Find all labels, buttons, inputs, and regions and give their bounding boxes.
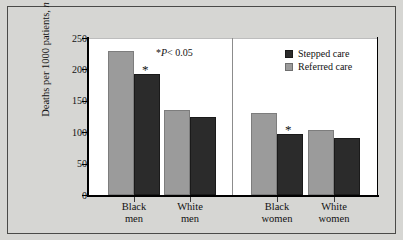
legend-label-referred-care: Referred care — [298, 62, 352, 72]
bar-stepped-black-men[interactable] — [134, 74, 160, 195]
bar-referred-white-men[interactable] — [164, 110, 190, 195]
x-axis-label-white-men: White men — [147, 201, 233, 224]
x-axis-label-white-men-line1: White — [147, 201, 233, 213]
significance-star-black-men: * — [142, 63, 149, 76]
y-tick-mark-250 — [82, 38, 87, 39]
x-axis-label-white-women-line1: White — [291, 201, 377, 213]
legend-item-stepped-care[interactable]: Stepped care — [285, 48, 352, 60]
bar-stepped-white-women[interactable] — [334, 138, 360, 195]
x-axis-label-white-women-line2: women — [291, 213, 377, 225]
x-axis-line — [87, 195, 379, 197]
y-tick-mark-50 — [82, 164, 87, 165]
bar-stepped-black-women[interactable] — [277, 134, 303, 196]
x-axis-label-white-men-line2: men — [147, 213, 233, 225]
y-axis-title-italic: n — [40, 2, 51, 7]
bar-stepped-white-men[interactable] — [190, 117, 216, 196]
y-tick-mark-200 — [82, 69, 87, 70]
legend: Stepped care Referred care — [285, 48, 352, 74]
y-axis-title: Deaths per 1000 patients, n — [40, 0, 51, 140]
p-value-suffix: < 0.05 — [167, 47, 193, 58]
y-tick-mark-0 — [82, 195, 87, 196]
legend-swatch-icon-stepped-care — [285, 50, 293, 58]
bar-referred-black-women[interactable] — [251, 113, 277, 195]
y-tick-mark-150 — [82, 101, 87, 102]
p-value-annotation: *P< 0.05 — [156, 47, 193, 58]
y-tick-mark-100 — [82, 132, 87, 133]
bar-referred-white-women[interactable] — [308, 130, 334, 195]
bar-referred-black-men[interactable] — [108, 51, 134, 195]
legend-item-referred-care[interactable]: Referred care — [285, 61, 352, 73]
figure-container: Deaths per 1000 patients, n 250 200 150 … — [0, 0, 403, 240]
legend-label-stepped-care: Stepped care — [298, 49, 349, 59]
figure-frame: Deaths per 1000 patients, n 250 200 150 … — [7, 6, 396, 234]
y-axis-title-text: Deaths per 1000 patients, — [40, 7, 51, 116]
y-tick-marks — [82, 7, 88, 240]
x-axis-label-white-women: White women — [291, 201, 377, 224]
legend-swatch-icon-referred-care — [285, 63, 293, 71]
significance-star-black-women: * — [285, 123, 292, 136]
